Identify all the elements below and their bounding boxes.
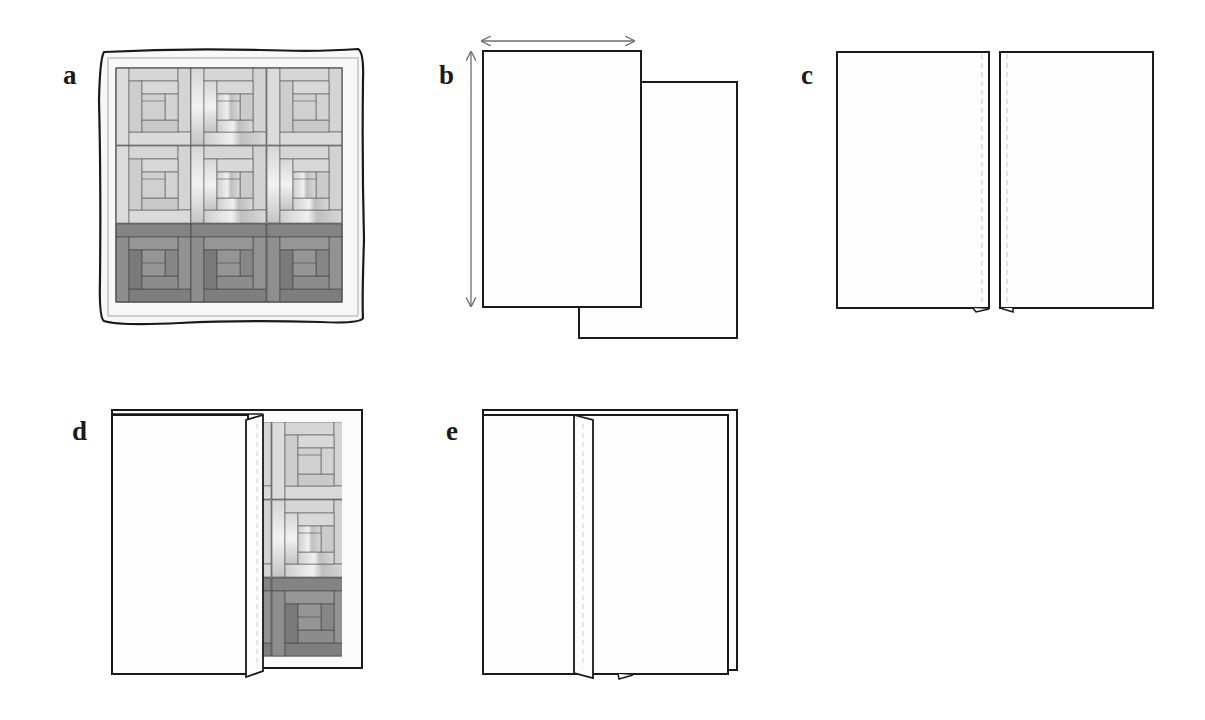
quilt-block: [267, 68, 342, 145]
folded-backing-panel: [112, 415, 248, 674]
backing-front-layer: [483, 415, 728, 674]
panel-d-fold-over-quilt: [112, 410, 362, 677]
quilt-block: [191, 68, 266, 145]
quilt-pieced-top: [116, 68, 342, 302]
fold-tab-right: [1000, 308, 1013, 312]
backing-panel-left: [837, 52, 989, 308]
quilt-block: [267, 224, 342, 302]
diagram-canvas: [0, 0, 1205, 720]
panel-e-joined-backing: [483, 410, 737, 679]
backing-panel-front: [483, 51, 641, 307]
panel-b-backing-offset: [471, 41, 737, 338]
quilt-block: [191, 146, 266, 223]
backing-panel-right: [1000, 52, 1153, 308]
quilt-block: [267, 146, 342, 223]
panel-c-backing-side-by-side: [837, 52, 1153, 312]
fold-strip: [246, 415, 263, 677]
quilt-block: [191, 224, 266, 302]
quilt-block: [116, 68, 191, 145]
panel-a-quilt: [99, 49, 364, 324]
quilt-block: [116, 224, 191, 302]
quilt-block: [116, 146, 191, 223]
